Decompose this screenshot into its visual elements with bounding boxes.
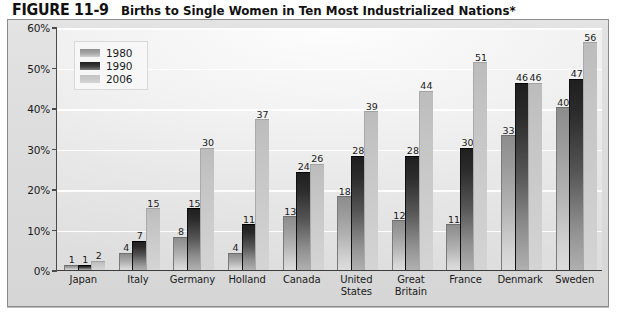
bar-2006: 30	[200, 148, 214, 271]
bar-group: 404756	[548, 28, 603, 270]
bar-value-label: 4	[123, 243, 129, 253]
bar-2006: 2	[91, 261, 105, 270]
bar-value-label: 8	[178, 227, 184, 237]
bar-2006: 39	[364, 111, 378, 270]
x-axis-label-line: Holland	[220, 274, 275, 286]
y-axis-tick-mark	[52, 189, 57, 191]
x-axis-label: Italy	[111, 274, 166, 286]
x-axis-label-line: States	[329, 286, 384, 298]
bar-1980: 12	[392, 220, 406, 270]
bar-value-label: 51	[475, 53, 487, 63]
y-axis-tick-label: 10%	[27, 225, 50, 237]
bar-value-label: 24	[298, 162, 310, 172]
y-axis-tick-mark	[52, 27, 57, 29]
bar-value-label: 40	[557, 98, 569, 108]
bar-group: 113051	[439, 28, 494, 270]
y-axis-tick-label: 20%	[27, 184, 50, 196]
bar-1980: 4	[119, 253, 133, 270]
bar-group: 122844	[385, 28, 440, 270]
bar-1980: 4	[228, 253, 242, 270]
legend-label-1990: 1990	[106, 60, 132, 72]
y-axis-tick-mark	[52, 270, 57, 272]
x-axis-label: France	[438, 274, 493, 286]
bar-value-label: 30	[461, 138, 473, 148]
bar-value-label: 1	[69, 255, 75, 265]
bar-value-label: 46	[516, 73, 528, 83]
bar-1990: 1	[78, 265, 92, 270]
y-axis: 0%10%20%30%40%50%60%	[8, 20, 54, 270]
x-axis-label-line: Germany	[165, 274, 220, 286]
x-axis-label-line: Japan	[56, 274, 111, 286]
bar-1990: 30	[460, 148, 474, 271]
bar-1980: 40	[556, 107, 570, 270]
x-axis-label: Denmark	[493, 274, 548, 286]
bar-value-label: 12	[393, 211, 405, 221]
x-axis-label-line: Italy	[111, 274, 166, 286]
x-axis-labels: JapanItalyGermanyHollandCanadaUnitedStat…	[56, 274, 602, 308]
y-axis-tick-label: 40%	[27, 103, 50, 115]
x-axis-label: GreatBritain	[384, 274, 439, 297]
x-axis-label: Germany	[165, 274, 220, 286]
bar-value-label: 33	[503, 126, 515, 136]
bar-1990: 28	[405, 156, 419, 270]
legend-label-1980: 1980	[106, 47, 132, 59]
legend-item-1980: 1980	[80, 46, 142, 59]
x-axis-label: Japan	[56, 274, 111, 286]
bar-value-label: 2	[96, 251, 102, 261]
x-axis-label: Canada	[274, 274, 329, 286]
legend-swatch-icon-1980	[80, 49, 100, 57]
bar-value-label: 30	[202, 138, 214, 148]
legend-swatch-icon-2006	[80, 75, 100, 83]
x-axis-label-line: Denmark	[493, 274, 548, 286]
bar-1980: 8	[173, 237, 187, 270]
x-axis-label: Sweden	[547, 274, 602, 286]
bar-value-label: 37	[257, 110, 269, 120]
bar-value-label: 44	[420, 81, 432, 91]
bar-2006: 51	[473, 62, 487, 270]
bar-value-label: 1	[82, 255, 88, 265]
x-axis-label-line: France	[438, 274, 493, 286]
y-axis-tick-mark	[52, 230, 57, 232]
bar-value-label: 15	[147, 199, 159, 209]
bar-value-label: 15	[188, 199, 200, 209]
bar-value-label: 11	[448, 215, 460, 225]
bar-value-label: 26	[311, 154, 323, 164]
legend-item-2006: 2006	[80, 72, 142, 85]
y-axis-tick-label: 50%	[27, 63, 50, 75]
bar-1990: 24	[296, 172, 310, 270]
bar-value-label: 46	[530, 73, 542, 83]
figure-container: FIGURE 11-9Births to Single Women in Ten…	[0, 0, 617, 318]
x-axis-label-line: Britain	[384, 286, 439, 298]
bar-1980: 1	[64, 265, 78, 270]
x-axis-label-line: Sweden	[547, 274, 602, 286]
y-axis-tick-label: 60%	[27, 22, 50, 34]
legend-swatch-icon-1990	[80, 62, 100, 70]
y-axis-tick-label: 30%	[27, 144, 50, 156]
x-axis-label: UnitedStates	[329, 274, 384, 297]
bar-1990: 7	[132, 241, 146, 270]
bar-value-label: 18	[339, 187, 351, 197]
legend-item-1990: 1990	[80, 59, 142, 72]
bar-2006: 37	[255, 119, 269, 270]
bar-value-label: 28	[352, 146, 364, 156]
bar-value-label: 4	[233, 243, 239, 253]
chart-frame: 0%10%20%30%40%50%60% 1124715815304113713…	[7, 19, 609, 307]
y-axis-tick-mark	[52, 149, 57, 151]
x-axis-label-line: Great	[384, 274, 439, 286]
legend-label-2006: 2006	[106, 73, 132, 85]
y-axis-tick-mark	[52, 108, 57, 110]
bar-1980: 11	[446, 224, 460, 270]
bar-2006: 26	[310, 164, 324, 270]
y-axis-tick-label: 0%	[34, 265, 50, 277]
bar-2006: 15	[146, 208, 160, 270]
figure-number-label: FIGURE 11-9	[12, 1, 109, 19]
bar-group: 81530	[166, 28, 221, 270]
bar-value-label: 11	[243, 215, 255, 225]
bar-value-label: 28	[407, 146, 419, 156]
bar-1990: 28	[351, 156, 365, 270]
figure-title-row: FIGURE 11-9Births to Single Women in Ten…	[12, 0, 612, 20]
bar-1990: 15	[187, 208, 201, 270]
bar-value-label: 7	[137, 231, 143, 241]
bar-group: 41137	[221, 28, 276, 270]
bar-group: 182839	[330, 28, 385, 270]
